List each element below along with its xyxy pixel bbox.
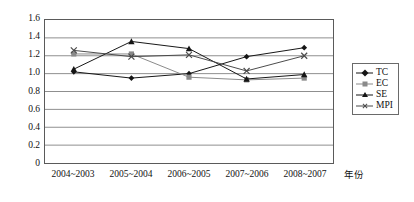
y-axis-tick-label: 1.4	[28, 32, 40, 42]
x-axis-tick-label: 2007~2006	[225, 170, 268, 180]
legend-label: MPI	[376, 101, 393, 111]
legend-glyph	[362, 92, 368, 97]
legend-item-ec[interactable]: EC	[356, 78, 393, 89]
x-axis-tick-label: 2006~2005	[167, 170, 210, 180]
chart-legend: TCECSEMPI	[352, 63, 399, 115]
data-point-marker	[128, 38, 134, 44]
y-axis-tick-label: 1.0	[28, 69, 40, 79]
data-point-marker	[129, 75, 135, 81]
y-axis-tick-label: 1.2	[28, 51, 40, 61]
y-axis-tick-label: 0.4	[28, 123, 40, 133]
legend-item-se[interactable]: SE	[356, 89, 393, 100]
y-axis-tick-label: 1.6	[28, 14, 40, 24]
series-lines	[45, 20, 333, 163]
legend-glyph	[362, 103, 368, 109]
legend-label: TC	[376, 68, 388, 78]
legend-marker-cross-icon	[356, 101, 373, 111]
legend-marker-triangle-icon	[356, 90, 373, 100]
legend-item-mpi[interactable]: MPI	[356, 100, 393, 111]
x-axis-title: 年份	[344, 170, 364, 180]
legend-marker-diamond-icon	[356, 68, 373, 78]
legend-glyph	[361, 69, 368, 76]
data-point-marker	[244, 68, 250, 74]
x-axis-tick-label: 2008~2007	[283, 170, 326, 180]
legend-marker-square-icon	[356, 79, 373, 89]
y-axis-tick-label: 0	[35, 159, 40, 169]
data-point-marker	[301, 45, 307, 51]
y-axis-tick-label: 0.8	[28, 87, 40, 97]
data-point-marker	[186, 75, 191, 80]
data-point-marker	[301, 53, 307, 59]
y-axis-tick-label: 0.6	[28, 105, 40, 115]
y-axis-tick-labels: 00.20.40.60.81.01.21.41.6	[0, 19, 40, 164]
series-mpi	[71, 47, 307, 73]
data-point-marker	[71, 66, 77, 72]
plot-area	[44, 19, 334, 164]
legend-glyph	[362, 81, 367, 86]
legend-item-tc[interactable]: TC	[356, 67, 393, 78]
x-axis-tick-label: 2004~2003	[51, 170, 94, 180]
legend-label: EC	[376, 79, 388, 89]
data-point-marker	[129, 51, 134, 56]
chart-figure: 00.20.40.60.81.01.21.41.6 2004~20032005~…	[0, 0, 414, 202]
data-point-marker	[244, 54, 250, 60]
legend-label: SE	[376, 90, 387, 100]
x-axis-tick-labels: 2004~20032005~20042006~20052007~20062008…	[44, 168, 334, 188]
y-axis-tick-label: 0.2	[28, 141, 40, 151]
x-axis-tick-label: 2005~2004	[109, 170, 152, 180]
series-ec	[71, 51, 307, 82]
